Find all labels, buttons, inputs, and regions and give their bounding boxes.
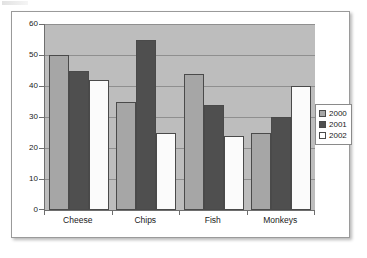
plot-area (44, 24, 315, 211)
x-axis-tick-mark (247, 210, 248, 215)
x-axis-tick-mark (314, 210, 315, 215)
bar-fish-2001 (204, 105, 224, 210)
y-axis-tick-label: 40 (29, 82, 38, 90)
bar-group (113, 24, 181, 210)
bar-cheese-2001 (69, 71, 89, 211)
chart-figure: 0102030405060 CheeseChipsFishMonkeys 200… (11, 11, 350, 238)
x-axis-category-label: Chips (112, 216, 180, 225)
bar-group (248, 24, 316, 210)
bar-monkeys-2000 (251, 133, 271, 211)
legend-swatch-icon (319, 132, 326, 139)
y-axis-tick-label: 50 (29, 51, 38, 59)
y-axis-tick-label: 60 (29, 20, 38, 28)
y-axis-tick-labels: 0102030405060 (16, 24, 38, 210)
y-axis-tick-label: 0 (34, 206, 38, 214)
x-axis-tick-mark (112, 210, 113, 215)
legend-item-label: 2001 (329, 121, 347, 129)
x-axis-tick-mark (44, 210, 45, 215)
chart-legend: 200020012002 (315, 104, 352, 145)
x-axis-category-labels: CheeseChipsFishMonkeys (44, 216, 314, 225)
bar-monkeys-2002 (291, 86, 311, 210)
bar-group (180, 24, 248, 210)
legend-item-2002: 2002 (319, 130, 347, 141)
x-axis-category-label: Cheese (44, 216, 112, 225)
legend-swatch-icon (319, 121, 326, 128)
scan-artifact (2, 1, 28, 5)
legend-item-2001: 2001 (319, 119, 347, 130)
legend-swatch-icon (319, 110, 326, 117)
y-axis-tick-label: 20 (29, 144, 38, 152)
bar-groups (45, 24, 315, 210)
legend-item-label: 2002 (329, 132, 347, 140)
bar-fish-2000 (184, 74, 204, 210)
bar-chips-2001 (136, 40, 156, 211)
legend-item-2000: 2000 (319, 108, 347, 119)
x-axis-tick-mark (179, 210, 180, 215)
bar-cheese-2002 (89, 80, 109, 210)
plot-wrapper: 0102030405060 CheeseChipsFishMonkeys 200… (12, 12, 349, 237)
bar-monkeys-2001 (271, 117, 291, 210)
bar-cheese-2000 (49, 55, 69, 210)
y-axis-tick-label: 10 (29, 175, 38, 183)
bar-fish-2002 (224, 136, 244, 210)
bar-group (45, 24, 113, 210)
x-axis-category-label: Monkeys (247, 216, 315, 225)
legend-item-label: 2000 (329, 110, 347, 118)
bar-chips-2000 (116, 102, 136, 211)
bar-chips-2002 (156, 133, 176, 211)
y-axis-tick-label: 30 (29, 113, 38, 121)
x-axis-category-label: Fish (179, 216, 247, 225)
